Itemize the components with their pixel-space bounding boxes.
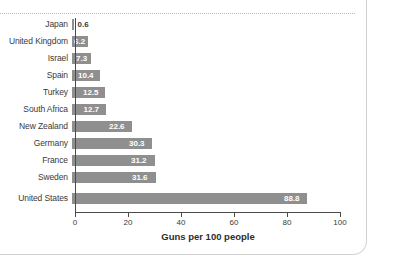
bar-value-label: 0.6: [78, 19, 89, 30]
category-label: United Kingdom: [0, 35, 72, 48]
top-dotted-divider: [0, 13, 355, 14]
x-axis-tick-label: 40: [177, 218, 186, 227]
bar-zone: 88.8: [72, 192, 360, 205]
bar-zone: 12.5: [72, 86, 360, 99]
table-row: United States 88.8: [0, 192, 360, 205]
table-row: Turkey 12.5: [0, 86, 360, 99]
x-axis-tick: [128, 213, 129, 217]
x-axis-tick-label: 60: [230, 218, 239, 227]
category-label: Japan: [0, 18, 72, 31]
bar-zone: 12.7: [72, 103, 360, 116]
bar-value-label: 31.6: [132, 172, 148, 183]
bar-value-label: 12.7: [84, 104, 100, 115]
table-row: Israel 7.3: [0, 52, 360, 65]
bar-zone: 0.6: [72, 18, 360, 31]
category-label: France: [0, 154, 72, 167]
bar[interactable]: [72, 193, 307, 204]
x-axis-title: Guns per 100 people: [75, 231, 341, 242]
category-label: Sweden: [0, 171, 72, 184]
x-axis-tick: [75, 213, 76, 217]
chart-page: Japan 0.6 United Kingdom 6.2 Israel 7.3: [0, 0, 393, 265]
x-axis-tick: [287, 213, 288, 217]
table-row: New Zealand 22.6: [0, 120, 360, 133]
category-label: Spain: [0, 69, 72, 82]
bar-value-label: 31.2: [131, 155, 147, 166]
bar-zone: 22.6: [72, 120, 360, 133]
bar-zone: 30.3: [72, 137, 360, 150]
table-row: Germany 30.3: [0, 137, 360, 150]
bar-value-label: 12.5: [83, 87, 99, 98]
bar-zone: 31.6: [72, 171, 360, 184]
x-axis-tick-label: 20: [124, 218, 133, 227]
x-axis-tick-label: 80: [283, 218, 292, 227]
x-axis-tick: [181, 213, 182, 217]
category-label: New Zealand: [0, 120, 72, 133]
bar-zone: 31.2: [72, 154, 360, 167]
y-axis-line: [75, 18, 76, 212]
bar-value-label: 88.8: [284, 193, 300, 204]
bar-zone: 7.3: [72, 52, 360, 65]
table-row: Japan 0.6: [0, 18, 360, 31]
table-row: United Kingdom 6.2: [0, 35, 360, 48]
table-row: France 31.2: [0, 154, 360, 167]
table-row: Sweden 31.6: [0, 171, 360, 184]
x-axis-line: [75, 212, 341, 213]
x-axis-tick-label: 100: [333, 218, 346, 227]
category-label: Germany: [0, 137, 72, 150]
bar-zone: 10.4: [72, 69, 360, 82]
category-label: Israel: [0, 52, 72, 65]
bar-rows: Japan 0.6 United Kingdom 6.2 Israel 7.3: [0, 18, 360, 213]
x-axis-tick-label: 0: [73, 218, 77, 227]
category-label: Turkey: [0, 86, 72, 99]
bar-value-label: 10.4: [78, 70, 94, 81]
category-label: United States: [0, 192, 72, 205]
bar-zone: 6.2: [72, 35, 360, 48]
x-axis-tick: [234, 213, 235, 217]
bar-value-label: 22.6: [109, 121, 125, 132]
bar-value-label: 7.3: [76, 53, 87, 64]
x-axis-tick: [340, 213, 341, 217]
table-row: Spain 10.4: [0, 69, 360, 82]
bar-chart: Japan 0.6 United Kingdom 6.2 Israel 7.3: [0, 18, 360, 218]
table-row: South Africa 12.7: [0, 103, 360, 116]
category-label: South Africa: [0, 103, 72, 116]
bar-value-label: 30.3: [129, 138, 145, 149]
bar[interactable]: [72, 19, 74, 30]
